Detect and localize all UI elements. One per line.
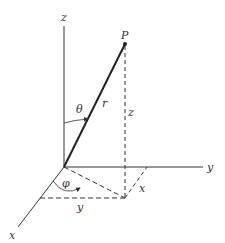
radius-line <box>64 44 125 167</box>
diagram-svg: z y x P r θ φ z x y <box>0 0 225 243</box>
theta-label: θ <box>76 103 83 116</box>
z-axis-label: z <box>60 11 67 24</box>
x-axis <box>18 167 64 227</box>
radius-label: r <box>102 97 108 110</box>
phi-label: φ <box>62 177 70 190</box>
y-projection-label: y <box>76 201 84 214</box>
x-projection-label: x <box>139 182 146 195</box>
point-p-label: P <box>120 29 129 42</box>
theta-arc <box>64 119 88 123</box>
spherical-coordinates-diagram: z y x P r θ φ z x y <box>0 0 225 243</box>
projection-dashed <box>64 167 125 198</box>
y-axis-label: y <box>206 161 214 174</box>
point-p <box>123 42 127 46</box>
x-axis-label: x <box>9 229 16 242</box>
z-height-label: z <box>127 106 134 119</box>
